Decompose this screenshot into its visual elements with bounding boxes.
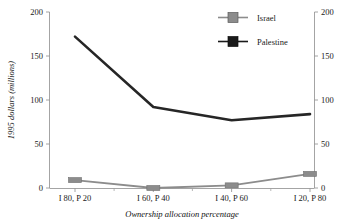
chart-figure: 200 150 100 50 0 1995 dollars (millions)… — [0, 0, 348, 224]
x-axis-title: Ownership allocation percentage — [125, 209, 239, 219]
data-point-israel-3[interactable] — [304, 171, 317, 176]
data-point-israel-1[interactable] — [147, 186, 160, 191]
legend-item-palestine[interactable]: Palestine — [218, 37, 288, 48]
series-layer — [69, 34, 317, 190]
x-axis: I 80, P 20 I 60, P 40 I 40, P 60 I 20, P… — [50, 189, 327, 220]
y-tick-label-right-150: 150 — [321, 51, 334, 61]
data-point-israel-2[interactable] — [225, 183, 238, 188]
y-tick-label-right-50: 50 — [321, 139, 330, 149]
data-point-israel-0[interactable] — [69, 178, 82, 183]
y-tick-label-left-100: 100 — [30, 95, 43, 105]
y-tick-label-left-0: 0 — [39, 183, 43, 193]
x-tick-label-1: I 60, P 40 — [137, 193, 170, 203]
y-axis-right: 200 150 100 50 0 — [315, 7, 334, 193]
y-axis-title: 1995 dollars (millions) — [6, 61, 16, 140]
series-israel — [69, 171, 317, 190]
series-line-palestine — [75, 37, 310, 121]
x-tick-label-3: I 20, P 80 — [294, 193, 327, 203]
legend-label-palestine: Palestine — [257, 37, 288, 47]
y-tick-label-left-200: 200 — [30, 7, 43, 17]
series-line-israel — [75, 174, 310, 188]
y-tick-label-right-0: 0 — [321, 183, 325, 193]
chart-legend: Israel Palestine — [218, 13, 288, 48]
series-palestine — [69, 34, 317, 123]
chart-svg: 200 150 100 50 0 1995 dollars (millions)… — [0, 0, 348, 224]
y-tick-label-right-100: 100 — [321, 95, 334, 105]
legend-marker-israel — [228, 13, 238, 23]
y-tick-label-right-200: 200 — [321, 7, 334, 17]
legend-marker-palestine — [228, 37, 238, 47]
legend-label-israel: Israel — [257, 13, 277, 23]
x-tick-label-0: I 80, P 20 — [59, 193, 92, 203]
y-tick-label-left-150: 150 — [30, 51, 43, 61]
legend-item-israel[interactable]: Israel — [218, 13, 277, 24]
y-tick-label-left-50: 50 — [35, 139, 44, 149]
x-tick-label-2: I 40, P 60 — [215, 193, 248, 203]
y-axis-left: 200 150 100 50 0 1995 dollars (millions) — [6, 7, 50, 193]
